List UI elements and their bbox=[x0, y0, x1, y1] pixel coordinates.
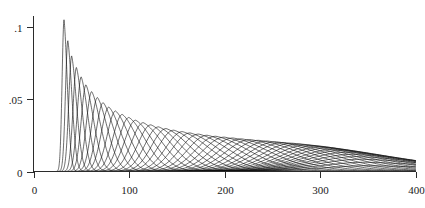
density-curve-chart: 0.05.1 0100200300400 bbox=[0, 0, 425, 208]
x-tick-label: 100 bbox=[121, 184, 138, 196]
y-tick-label: .05 bbox=[9, 94, 23, 106]
x-tick-label: 0 bbox=[32, 184, 38, 196]
y-tick-label: 0 bbox=[17, 167, 23, 179]
x-tick-label: 300 bbox=[312, 184, 329, 196]
x-tick-label: 200 bbox=[217, 184, 234, 196]
y-tick-label: .1 bbox=[14, 22, 22, 34]
x-tick-label: 400 bbox=[408, 184, 425, 196]
chart-background bbox=[0, 0, 425, 208]
